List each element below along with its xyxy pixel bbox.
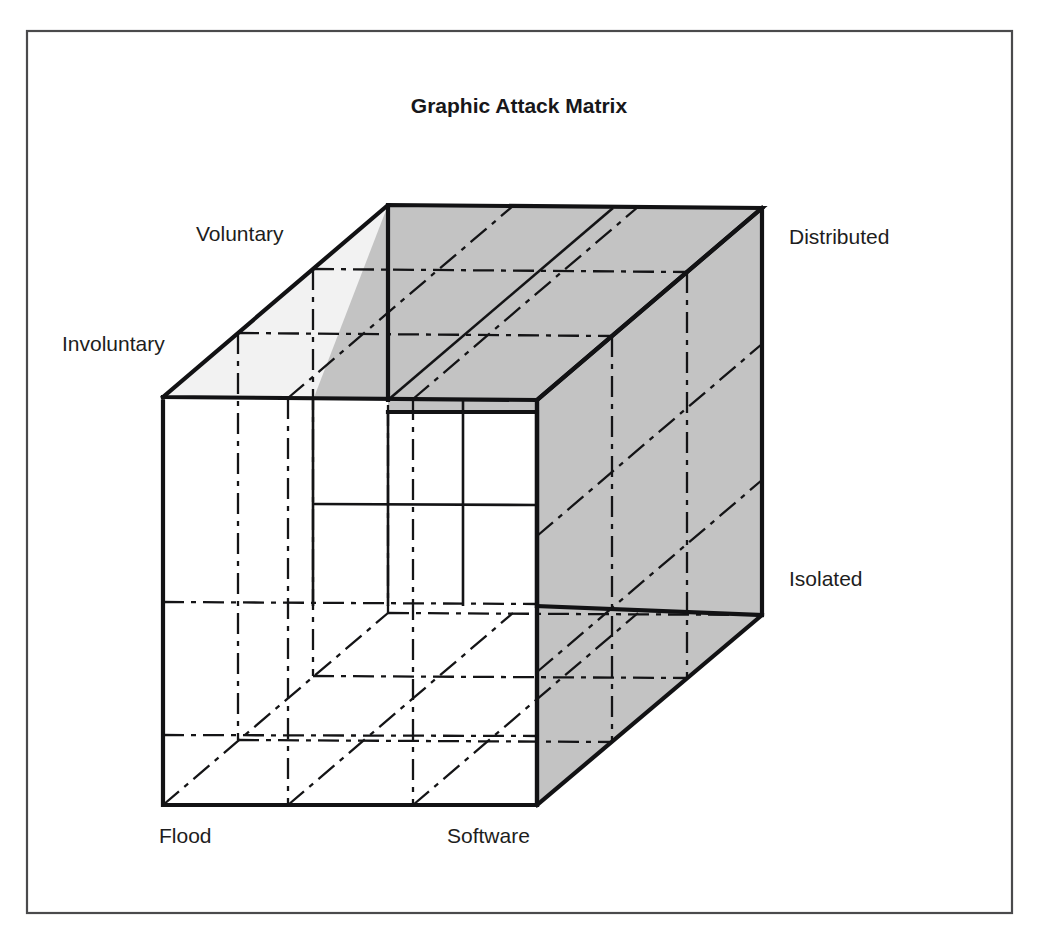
label-software: Software bbox=[447, 824, 530, 847]
label-isolated: Isolated bbox=[789, 567, 863, 590]
label-voluntary: Voluntary bbox=[196, 222, 284, 245]
figure-root: Graphic Attack Matrix Voluntary Involunt… bbox=[0, 0, 1038, 937]
notch-interior-white bbox=[393, 412, 537, 606]
label-involuntary: Involuntary bbox=[62, 332, 165, 355]
notch-inner-horizontal bbox=[313, 504, 537, 505]
attack-matrix-diagram: Graphic Attack Matrix Voluntary Involunt… bbox=[0, 0, 1038, 937]
label-flood: Flood bbox=[159, 824, 212, 847]
label-distributed: Distributed bbox=[789, 225, 889, 248]
page-title: Graphic Attack Matrix bbox=[411, 94, 628, 117]
